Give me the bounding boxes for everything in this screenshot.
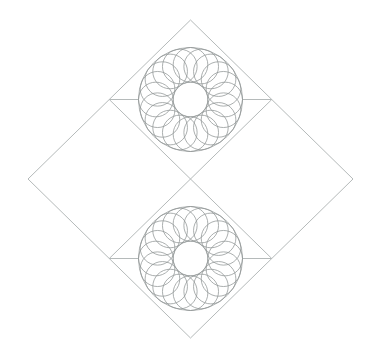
rosette-top-outer-circle (139, 48, 243, 152)
rosette-top (109, 48, 272, 152)
rosette-bottom-outer-circle (139, 207, 243, 311)
rosette-bottom-inner-circle (173, 241, 208, 276)
figure-canvas (0, 0, 372, 357)
rosette-bottom (109, 207, 272, 311)
rosette-top-inner-circle (173, 82, 208, 117)
geometric-figure (0, 0, 372, 357)
